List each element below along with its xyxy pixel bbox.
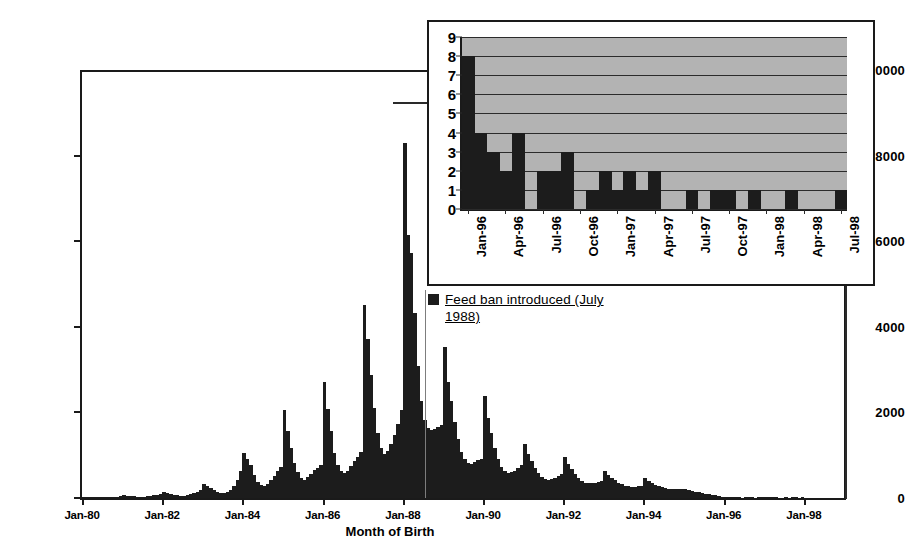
- main-x-tick-label: Jan-92: [546, 509, 581, 521]
- inset-connector-bottom: [845, 285, 847, 499]
- inset-x-tick-label: Jan-97: [623, 216, 638, 257]
- legend-swatch-feed-ban: [428, 294, 439, 305]
- legend-label-feed-ban: Feed ban introduced (July 1988): [445, 291, 628, 325]
- main-y-tick-mark: [74, 326, 82, 328]
- inset-x-tick-mark: [617, 209, 618, 214]
- inset-x-tick-label: Oct-96: [586, 216, 601, 256]
- inset-bar: [474, 133, 487, 209]
- inset-y-tick-label: 8: [448, 48, 456, 65]
- inset-x-tick-label: Oct-97: [735, 216, 750, 256]
- inset-y-tick-label: 7: [448, 67, 456, 84]
- inset-bar: [487, 152, 500, 209]
- main-x-tick-mark: [483, 498, 485, 505]
- inset-y-tick-label: 4: [448, 124, 456, 141]
- main-x-tick-mark: [82, 498, 84, 505]
- inset-bar: [611, 190, 624, 209]
- main-x-tick-label: Jan-84: [225, 509, 260, 521]
- inset-bar: [648, 171, 661, 209]
- inset-gridline: [462, 56, 847, 57]
- inset-bar: [623, 171, 636, 209]
- main-x-tick-label: Jan-88: [385, 509, 420, 521]
- inset-x-tick-label: Jul-96: [549, 216, 564, 254]
- inset-x-tick-label: Apr-97: [661, 216, 676, 257]
- inset-x-tick-mark: [804, 209, 805, 214]
- main-x-tick-mark: [643, 498, 645, 505]
- inset-gridline: [462, 37, 847, 38]
- main-x-tick-mark: [162, 498, 164, 505]
- inset-y-tick-label: 2: [448, 162, 456, 179]
- inset-bar: [462, 56, 475, 209]
- inset-y-tick-label: 1: [448, 181, 456, 198]
- inset-x-tick-mark: [841, 209, 842, 214]
- main-x-tick-label: Jan-94: [626, 509, 661, 521]
- main-bar: [774, 497, 778, 498]
- inset-y-tick-label: 9: [448, 29, 456, 46]
- inset-gridline: [462, 75, 847, 76]
- inset-gridline: [462, 94, 847, 95]
- main-x-axis-line: [80, 498, 846, 500]
- inset-bar: [636, 190, 649, 209]
- main-y-tick-label: 0: [839, 491, 905, 506]
- inset-bar: [835, 190, 848, 209]
- main-y-tick-label: 2000: [839, 405, 905, 420]
- main-y-tick-mark: [74, 155, 82, 157]
- main-x-axis-title: Month of Birth: [270, 524, 510, 539]
- inset-bar: [537, 171, 550, 209]
- inset-x-tick-mark: [505, 209, 506, 214]
- inset-bar: [586, 190, 599, 209]
- main-x-tick-mark: [323, 498, 325, 505]
- main-bar: [737, 497, 741, 498]
- inset-bar: [599, 171, 612, 209]
- inset-x-tick-label: Jul-97: [698, 216, 713, 254]
- main-x-tick-label: Jan-80: [64, 509, 99, 521]
- main-x-tick-label: Jan-98: [786, 509, 821, 521]
- main-x-tick-label: Jan-90: [465, 509, 500, 521]
- inset-y-tick-label: 3: [448, 143, 456, 160]
- inset-x-tick-mark: [729, 209, 730, 214]
- inset-x-tick-label: Jan-96: [474, 216, 489, 257]
- inset-x-tick-mark: [580, 209, 581, 214]
- main-x-tick-label: Jan-96: [706, 509, 741, 521]
- main-y-tick-label: 4000: [839, 319, 905, 334]
- main-y-tick-mark: [74, 240, 82, 242]
- main-bar: [801, 497, 805, 498]
- inset-x-tick-label: Apr-98: [810, 216, 825, 257]
- legend: Feed ban introduced (July 1988): [428, 291, 628, 325]
- inset-x-tick-label: Jan-98: [772, 216, 787, 257]
- main-x-tick-mark: [403, 498, 405, 505]
- inset-bar: [512, 133, 525, 209]
- inset-x-tick-mark: [655, 209, 656, 214]
- inset-connector-left: [393, 102, 429, 104]
- inset-y-tick-label: 6: [448, 86, 456, 103]
- inset-y-tick-mark: [456, 37, 462, 38]
- inset-x-tick-mark: [543, 209, 544, 214]
- inset-x-tick-mark: [468, 209, 469, 214]
- inset-gridline: [462, 113, 847, 114]
- main-x-tick-mark: [242, 498, 244, 505]
- inset-x-tick-label: Jul-98: [847, 216, 862, 254]
- inset-bar: [549, 171, 562, 209]
- inset-chart: 0123456789 Jan-96Apr-96Jul-96Oct-96Jan-9…: [427, 20, 875, 286]
- main-bar: [784, 497, 788, 498]
- main-x-tick-mark: [724, 498, 726, 505]
- main-x-tick-mark: [804, 498, 806, 505]
- inset-y-tick-label: 5: [448, 105, 456, 122]
- main-x-tick-mark: [563, 498, 565, 505]
- main-x-tick-label: Jan-86: [305, 509, 340, 521]
- inset-bar: [785, 190, 798, 209]
- inset-bar: [499, 171, 512, 209]
- main-bar: [750, 497, 754, 498]
- inset-x-tick-mark: [692, 209, 693, 214]
- main-bar: [794, 497, 798, 498]
- inset-bar: [686, 190, 699, 209]
- inset-bar: [748, 190, 761, 209]
- main-y-tick-mark: [74, 497, 82, 499]
- main-x-tick-label: Jan-82: [145, 509, 180, 521]
- feed-ban-marker-line: [425, 290, 426, 498]
- inset-x-tick-label: Apr-96: [511, 216, 526, 257]
- inset-bar: [723, 190, 736, 209]
- inset-bar: [710, 190, 723, 209]
- inset-y-tick-label: 0: [448, 201, 456, 218]
- main-y-tick-mark: [74, 411, 82, 413]
- inset-bar: [561, 152, 574, 209]
